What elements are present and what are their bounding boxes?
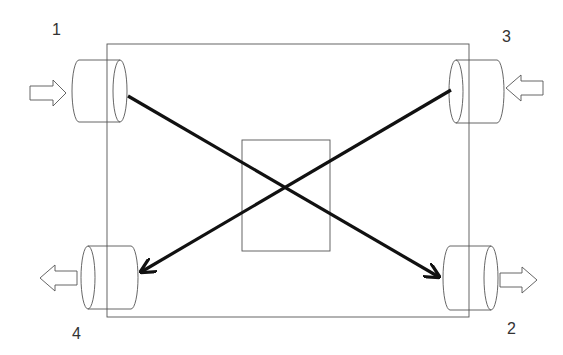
- port-3-cylinder: [449, 60, 504, 123]
- port-4-outflow-arrow-icon: [40, 265, 77, 291]
- port-3-inflow-arrow-icon: [506, 75, 543, 101]
- port-1-inflow-arrow-icon: [30, 80, 66, 106]
- port-2-outflow-arrow-icon: [500, 267, 537, 293]
- port-2-cylinder: [443, 246, 498, 310]
- diagram-canvas: 1 3 4 2: [0, 0, 563, 355]
- connection-3-to-4-arrow: [141, 90, 451, 272]
- port-4-cylinder: [81, 246, 138, 309]
- port-1-label: 1: [52, 21, 61, 38]
- port-2-label: 2: [507, 320, 516, 337]
- port-1-cylinder: [72, 60, 127, 122]
- outer-housing: [107, 44, 469, 317]
- center-box: [242, 140, 330, 251]
- port-4-label: 4: [72, 325, 81, 342]
- port-3-label: 3: [502, 28, 511, 45]
